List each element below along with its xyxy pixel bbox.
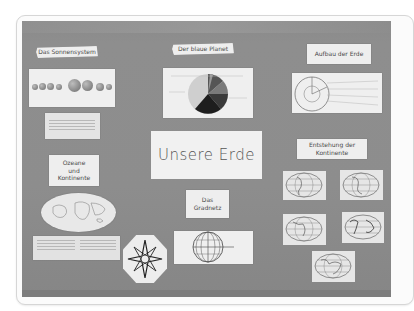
planet-icon: [82, 80, 93, 91]
continent-globe-4: [342, 212, 384, 243]
planet-icon: [56, 84, 62, 90]
gradnetz-heading: Das Gradnetz: [186, 190, 229, 218]
pie-chart-card: [163, 68, 253, 118]
continent-globe-2: [340, 170, 383, 200]
continent-globe-1: [283, 171, 326, 200]
heading-line: Gradnetz: [194, 204, 222, 212]
entstehung-heading: Entstehung der Kontinente: [297, 139, 367, 159]
earth-structure-diagram: [292, 73, 382, 113]
planet-icon: [39, 83, 46, 90]
board-bottom-edge: [22, 290, 391, 297]
sonnensystem-notes: [45, 113, 100, 139]
gradnetz-globe-diagram: [174, 231, 253, 264]
heading-line: und: [68, 167, 79, 175]
world-map: [41, 193, 116, 232]
planet-icon: [47, 83, 54, 90]
planet-icon: [106, 84, 112, 90]
oceans-continents-table: [33, 236, 120, 260]
heading-line: Das: [202, 196, 213, 204]
aufbau-heading: Aufbau der Erde: [307, 44, 371, 64]
heading-line: Ozeane: [63, 159, 86, 167]
solar-system-illustration: [29, 69, 115, 107]
heading-line: Entstehung der: [309, 141, 355, 149]
bulletin-board: Das Sonnensystem Der blaue Planet Aufbau…: [22, 21, 391, 297]
compass-rose: [123, 235, 167, 283]
blauer-planet-heading: Der blaue Planet: [172, 43, 234, 55]
heading-line: Kontinente: [58, 174, 90, 182]
board-top-edge: [22, 21, 391, 33]
continent-globe-3: [283, 214, 326, 245]
heading-line: Kontinente: [316, 149, 348, 157]
ozeane-heading: Ozeane und Kontinente: [49, 155, 99, 186]
continent-globe-5: [312, 251, 355, 282]
sonnensystem-heading: Das Sonnensystem: [36, 46, 98, 58]
main-title: Unsere Erde: [151, 131, 262, 179]
pie-chart: [163, 68, 253, 118]
planet-icon: [96, 83, 104, 91]
planet-icon: [32, 84, 38, 90]
planet-icon: [68, 79, 81, 92]
